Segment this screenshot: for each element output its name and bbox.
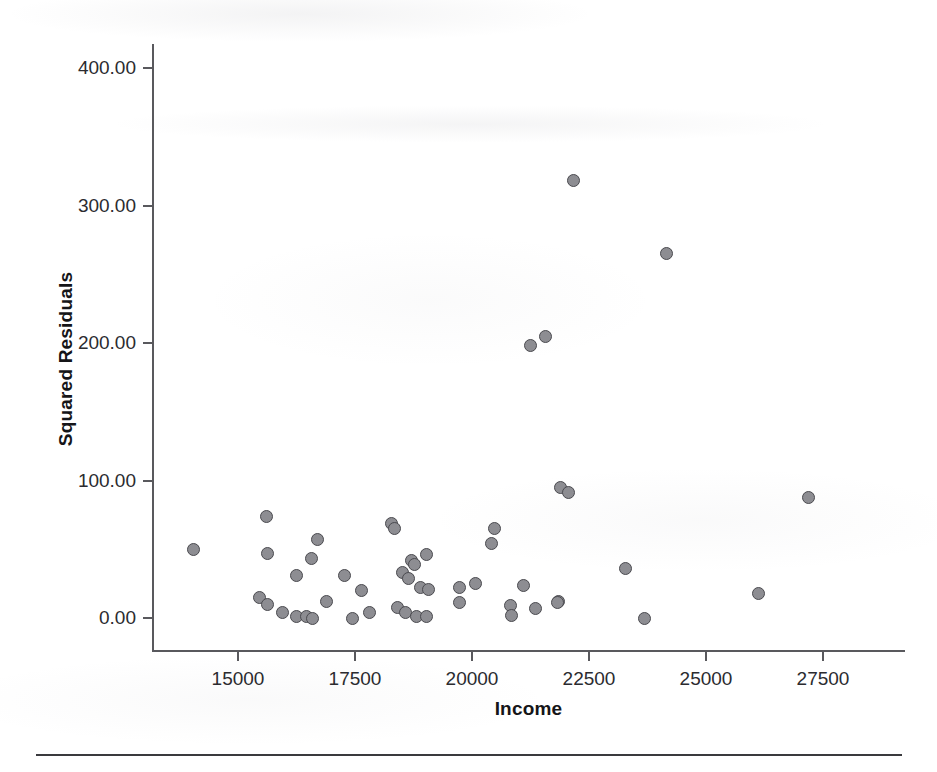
scatter-point (187, 543, 200, 556)
scatter-point (469, 577, 482, 590)
scatter-point (619, 562, 632, 575)
scatter-point (567, 174, 580, 187)
x-axis-line (152, 650, 905, 652)
x-tick-label: 15000 (212, 668, 265, 690)
scatter-point (422, 583, 435, 596)
y-tick-label: 200.00 (78, 332, 136, 354)
y-tick-label: 400.00 (78, 57, 136, 79)
scatter-point (396, 566, 409, 579)
x-axis-title: Income (152, 698, 905, 720)
scatter-point (420, 548, 433, 561)
x-tick-mark (705, 650, 707, 661)
scatter-point (405, 554, 418, 567)
scatter-point (410, 610, 423, 623)
plot-area (0, 0, 937, 772)
scatter-point (253, 591, 266, 604)
scatter-point (261, 598, 274, 611)
scatter-point (562, 486, 575, 499)
y-axis-line (152, 44, 154, 652)
y-tick-label: 0.00 (99, 607, 136, 629)
scatter-point (290, 610, 303, 623)
scatter-point (802, 491, 815, 504)
scatter-point (408, 558, 421, 571)
y-tick-mark (143, 480, 153, 482)
scatter-point (355, 584, 368, 597)
x-tick-label: 25000 (680, 668, 733, 690)
x-tick-mark (588, 650, 590, 661)
y-axis-title: Squared Residuals (55, 229, 77, 489)
footer-rule (36, 754, 902, 756)
x-tick-label: 27500 (797, 668, 850, 690)
scatter-point (388, 522, 401, 535)
scatter-point (517, 579, 530, 592)
scatter-point (399, 606, 412, 619)
scatter-point (261, 547, 274, 560)
x-tick-label: 17500 (329, 668, 382, 690)
scatter-point (539, 330, 552, 343)
scatter-point (752, 587, 765, 600)
x-tick-mark (471, 650, 473, 661)
scatter-point (504, 599, 517, 612)
scatter-point (306, 612, 319, 625)
scatter-point (554, 481, 567, 494)
scatter-point (488, 522, 501, 535)
scatter-plot-figure: 0.00100.00200.00300.00400.00 15000175002… (0, 0, 937, 772)
scatter-point (453, 596, 466, 609)
scatter-point (402, 572, 415, 585)
scatter-point (300, 610, 313, 623)
scatter-point (420, 610, 433, 623)
x-tick-mark (237, 650, 239, 661)
x-tick-label: 22500 (563, 668, 616, 690)
scatter-point (529, 602, 542, 615)
y-tick-mark (143, 342, 153, 344)
x-tick-label: 20000 (446, 668, 499, 690)
y-tick-label: 100.00 (78, 470, 136, 492)
scatter-point (485, 537, 498, 550)
scatter-point (276, 606, 289, 619)
scatter-point (320, 595, 333, 608)
scatter-point (338, 569, 351, 582)
scatter-point (311, 533, 324, 546)
y-tick-mark (143, 67, 153, 69)
scatter-point (660, 247, 673, 260)
scatter-point (305, 552, 318, 565)
scatter-point (290, 569, 303, 582)
scatter-point (391, 601, 404, 614)
scatter-point (552, 595, 565, 608)
scatter-point (551, 596, 564, 609)
y-tick-label: 300.00 (78, 195, 136, 217)
scatter-point (638, 612, 651, 625)
scatter-point (363, 606, 376, 619)
scatter-point (453, 581, 466, 594)
x-tick-mark (354, 650, 356, 661)
scatter-point (385, 517, 398, 530)
y-tick-mark (143, 205, 153, 207)
scatter-point (414, 581, 427, 594)
y-tick-mark (143, 617, 153, 619)
scatter-point (505, 609, 518, 622)
scatter-point (260, 510, 273, 523)
scatter-point (346, 612, 359, 625)
scatter-point (524, 339, 537, 352)
x-tick-mark (822, 650, 824, 661)
